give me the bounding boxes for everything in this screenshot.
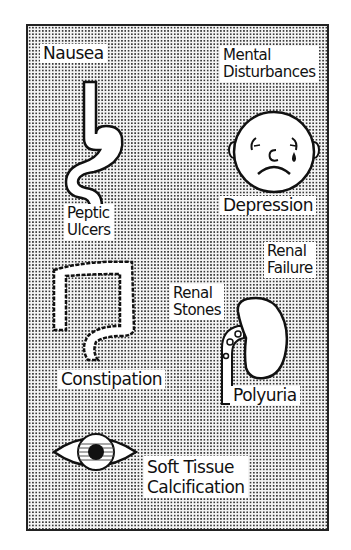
label-line: Peptic	[67, 205, 111, 222]
label-line: Disturbances	[223, 64, 316, 81]
label-renal-failure: Renal Failure	[264, 242, 316, 278]
label-line: Ulcers	[67, 222, 111, 239]
label-line: Stones	[173, 302, 221, 319]
label-mental-disturbances: Mental Disturbances	[220, 46, 319, 82]
label-line: Mental	[223, 47, 316, 64]
colon-icon	[48, 256, 138, 362]
eye-icon	[50, 430, 140, 476]
label-renal-stones: Renal Stones	[170, 284, 224, 320]
sad-face-icon	[228, 110, 320, 194]
label-line: Soft Tissue	[147, 457, 245, 477]
label-polyuria: Polyuria	[230, 386, 300, 405]
label-constipation: Constipation	[58, 370, 165, 389]
label-nausea: Nausea	[40, 44, 107, 63]
label-depression: Depression	[220, 196, 316, 215]
label-soft-tissue-calcification: Soft Tissue Calcification	[144, 456, 248, 498]
label-line: Renal	[267, 243, 313, 260]
label-line: Calcification	[147, 477, 245, 497]
label-peptic-ulcers: Peptic Ulcers	[64, 204, 114, 240]
label-line: Renal	[173, 285, 221, 302]
label-line: Failure	[267, 260, 313, 277]
